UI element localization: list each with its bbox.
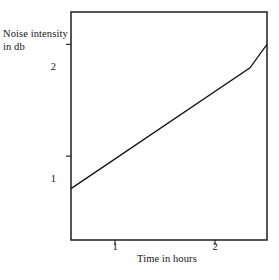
y-tick-label-1: 1 [40,173,56,185]
chart-figure: Noise intensityin db Time in hours 2 1 1… [0,0,279,280]
y-axis-label: Noise intensityin db [3,27,68,53]
y-tick-label-2: 2 [40,61,56,73]
plot-frame [71,12,267,240]
y-axis-label-line2: in db [3,41,25,52]
x-axis-label: Time in hours [137,252,197,265]
x-tick-label-1: 1 [108,241,122,253]
y-axis-label-line1: Noise intensity [3,28,68,39]
x-tick-label-2: 2 [208,241,222,253]
